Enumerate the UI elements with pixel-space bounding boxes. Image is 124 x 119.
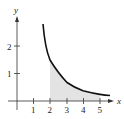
x-tick-label: 1: [31, 105, 36, 115]
x-axis-label: x: [116, 96, 121, 106]
y-tick-label: 1: [7, 69, 12, 79]
shaded-region: [50, 60, 100, 101]
x-tick-label: 2: [48, 105, 53, 115]
x-tick-label: 3: [65, 105, 70, 115]
x-axis-arrow: [108, 99, 114, 103]
y-axis-label: y: [13, 5, 18, 15]
chart: 1 2 3 4 5 1 2 x y: [0, 0, 124, 119]
y-axis-arrow: [15, 16, 19, 22]
x-tick-label: 4: [81, 105, 86, 115]
x-tick-label: 5: [98, 105, 103, 115]
y-tick-label: 2: [7, 42, 12, 52]
